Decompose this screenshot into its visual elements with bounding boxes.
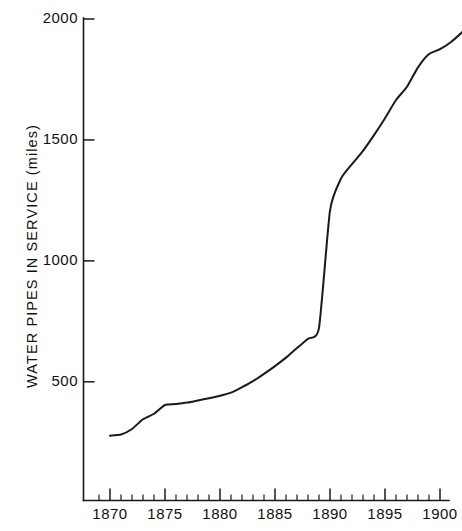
y-axis-tick-label: 500 (10, 372, 78, 389)
y-axis-tick-label: 2000 (10, 9, 78, 26)
y-axis-tick-label: 1500 (10, 130, 78, 147)
data-series-line (110, 21, 462, 435)
x-axis-minor-ticks (99, 495, 429, 501)
y-axis-ticks (84, 19, 95, 382)
y-axis-title: WATER PIPES IN SERVICE (miles) (24, 106, 40, 406)
chart-figure: 500100015002000 187018751880188518901895… (0, 0, 462, 531)
y-axis-tick-label: 1000 (10, 251, 78, 268)
x-axis-tick-label: 1900 (405, 505, 462, 522)
x-axis-major-ticks (110, 489, 440, 501)
